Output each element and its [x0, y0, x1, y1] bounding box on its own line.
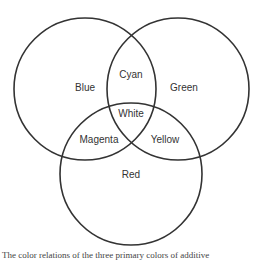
- label-blue: Blue: [75, 82, 95, 93]
- label-green: Green: [170, 82, 198, 93]
- label-red: Red: [122, 169, 140, 180]
- label-magenta: Magenta: [80, 134, 119, 145]
- label-cyan: Cyan: [119, 69, 142, 80]
- caption: The color relations of the three primary…: [2, 250, 209, 260]
- label-yellow: Yellow: [151, 134, 180, 145]
- label-white: White: [118, 108, 144, 119]
